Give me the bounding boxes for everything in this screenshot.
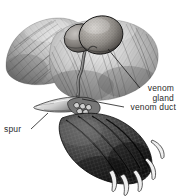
label-venom-gland: venom gland — [96, 84, 174, 103]
platypus-venom-apparatus-figure: venom gland venom duct spur — [0, 0, 180, 196]
label-venom-duct: venom duct — [96, 103, 176, 113]
label-spur: spur — [4, 125, 21, 135]
